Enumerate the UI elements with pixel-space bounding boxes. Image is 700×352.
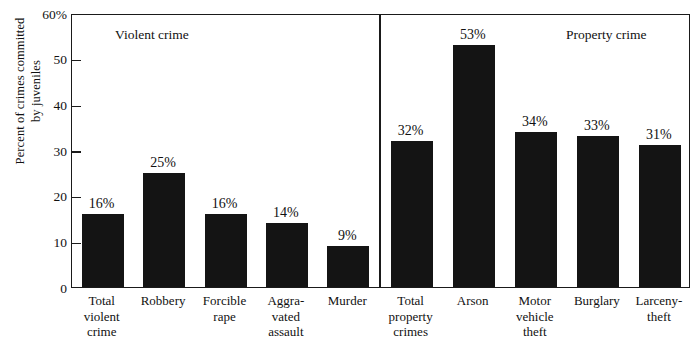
bar-value-label: 16% bbox=[195, 197, 255, 211]
bar-value-label: 32% bbox=[381, 124, 441, 138]
y-axis-tick-label: 60% bbox=[42, 8, 67, 22]
x-axis-category-label: Total violent crime bbox=[67, 293, 137, 340]
x-axis-category-label: Aggra- vated assault bbox=[251, 293, 321, 340]
bar bbox=[577, 136, 619, 287]
bar-value-label: 53% bbox=[443, 28, 503, 42]
x-axis-category-label: Murder bbox=[312, 293, 382, 309]
panel-caption: Violent crime bbox=[115, 28, 189, 42]
x-axis-category-label: Burglary bbox=[562, 293, 632, 309]
bar bbox=[82, 214, 124, 287]
y-axis-tick bbox=[72, 106, 81, 108]
x-axis-category-label: Arson bbox=[438, 293, 508, 309]
y-axis-tick-label: 30 bbox=[54, 145, 68, 159]
bar bbox=[143, 173, 185, 287]
panel-caption: Property crime bbox=[566, 28, 647, 42]
bar-value-label: 9% bbox=[317, 229, 377, 243]
plot-area bbox=[71, 14, 690, 288]
bar bbox=[205, 214, 247, 287]
y-axis-tick-label: 50 bbox=[54, 53, 68, 67]
bar bbox=[266, 223, 308, 287]
x-axis-category-label: Forcible rape bbox=[190, 293, 260, 324]
bar-value-label: 34% bbox=[505, 115, 565, 129]
y-axis-tick bbox=[72, 60, 81, 62]
y-axis-tick-label: 40 bbox=[54, 99, 68, 113]
bar bbox=[453, 45, 495, 287]
x-axis-category-label: Larceny- theft bbox=[624, 293, 694, 324]
bar-value-label: 16% bbox=[72, 197, 132, 211]
bar bbox=[515, 132, 557, 287]
bar bbox=[639, 145, 681, 287]
bar-value-label: 25% bbox=[133, 156, 193, 170]
y-axis-tick-label: 10 bbox=[54, 236, 68, 250]
y-axis-tick bbox=[72, 151, 81, 153]
y-axis-tick-label: 20 bbox=[54, 190, 68, 204]
bar-value-label: 31% bbox=[629, 128, 689, 142]
bar-value-label: 33% bbox=[567, 119, 627, 133]
bar-value-label: 14% bbox=[256, 206, 316, 220]
bar bbox=[391, 141, 433, 287]
panel-divider bbox=[379, 15, 381, 287]
bar-chart-figure: Percent of crimes committed by juveniles… bbox=[0, 0, 700, 352]
x-axis-category-label: Robbery bbox=[128, 293, 198, 309]
x-axis-category-label: Total property crimes bbox=[376, 293, 446, 340]
y-axis-tick bbox=[72, 243, 81, 245]
x-axis-category-label: Motor vehicle theft bbox=[500, 293, 570, 340]
y-axis-tick-labels: 60%50403020100 bbox=[28, 14, 67, 288]
bar bbox=[327, 246, 369, 287]
